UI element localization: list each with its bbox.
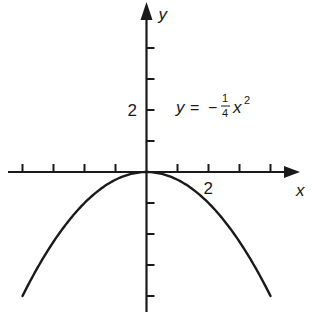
equation-var: x (232, 98, 242, 117)
y-axis-label: y (158, 5, 169, 24)
y-axis-arrow-icon (141, 2, 153, 20)
y-tick-label: 2 (128, 101, 137, 120)
parabola-chart: y x 2 2 y = − 1 4 x 2 (0, 0, 312, 313)
y-tick-labels: 2 (128, 101, 137, 120)
x-tick-labels: 2 (204, 179, 213, 198)
equation-minus: − (208, 99, 217, 116)
equation-lhs: y (175, 98, 186, 117)
equation-denominator: 4 (222, 107, 228, 119)
equation-numerator: 1 (222, 92, 228, 104)
equation-equals: = (190, 99, 199, 116)
x-tick-label: 2 (204, 179, 213, 198)
x-axis-arrow-icon (284, 166, 300, 178)
equation-label: y = − 1 4 x 2 (175, 92, 250, 119)
x-axis-label: x (295, 181, 305, 200)
equation-exponent: 2 (244, 94, 250, 106)
